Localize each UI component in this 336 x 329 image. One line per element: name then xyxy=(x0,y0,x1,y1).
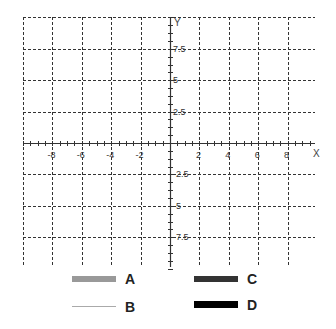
legend-item-b: B xyxy=(72,298,135,315)
legend-item-a: A xyxy=(72,270,135,287)
legend-item-c: C xyxy=(194,270,257,287)
x-tick-label: -8 xyxy=(47,150,55,160)
x-tick-label: -2 xyxy=(136,150,144,160)
y-tick-label: 2.5 xyxy=(173,107,186,117)
legend-swatch-d xyxy=(194,301,238,308)
legend-swatch-a xyxy=(72,276,116,282)
y-tick-label: -5 xyxy=(173,201,181,211)
legend-swatch-b xyxy=(72,306,116,307)
y-tick-label: 5 xyxy=(173,75,178,85)
y-tick-label: -2.5 xyxy=(173,169,189,179)
x-tick-label: 6 xyxy=(255,150,260,160)
y-tick-label: 7.5 xyxy=(173,44,186,54)
y-axis-label: Y xyxy=(174,17,181,28)
x-tick-label: -6 xyxy=(77,150,85,160)
legend-label-a: A xyxy=(125,271,135,287)
x-tick-label: 8 xyxy=(284,150,289,160)
legend-label-d: D xyxy=(247,297,257,313)
y-tick-label: -7.5 xyxy=(173,232,189,242)
legend-swatch-c xyxy=(194,276,238,282)
x-tick-label: -4 xyxy=(106,150,114,160)
legend-item-d: D xyxy=(194,296,257,313)
legend-label-c: C xyxy=(247,271,257,287)
x-tick-label: 4 xyxy=(225,150,230,160)
legend-label-b: B xyxy=(125,299,135,315)
x-axis-label: X xyxy=(313,148,320,159)
x-tick-label: 2 xyxy=(196,150,201,160)
chart-plot-area: -8-6-4-22468 7.552.5-2.5-5-7.5 X Y xyxy=(0,0,336,329)
